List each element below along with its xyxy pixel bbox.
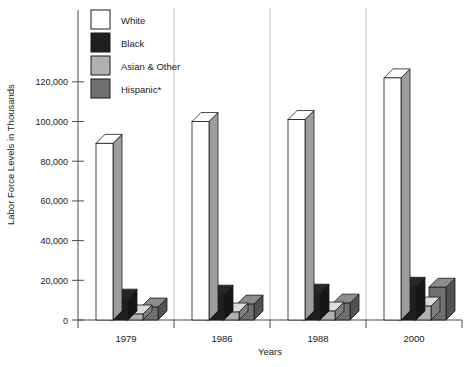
chart-canvas: 020,00040,00060,00080,000100,000120,000 …: [0, 0, 468, 367]
y-axis-title: Labor Force Levels in Thousands: [5, 84, 16, 225]
bar-side-face: [401, 69, 410, 320]
legend-swatch-hispanic-: [91, 79, 110, 98]
legend-label-black: Black: [121, 38, 144, 49]
y-tick-label: 60,000: [40, 196, 68, 206]
legend-swatch-black: [91, 33, 110, 52]
y-tick-label: 100,000: [35, 117, 68, 127]
bar-white-1988: [288, 111, 314, 320]
y-tick-label: 0: [63, 316, 68, 326]
bar-front-face: [288, 120, 305, 320]
y-tick-label: 20,000: [40, 276, 68, 286]
bar-white-1986: [192, 113, 218, 320]
legend-label-hispanic-: Hispanic*: [121, 84, 161, 95]
bar-side-face: [113, 134, 122, 320]
bar-side-face: [209, 113, 218, 320]
bar-white-2000: [384, 69, 410, 320]
y-tick-label: 120,000: [35, 77, 68, 87]
x-tick-label-2000: 2000: [403, 333, 424, 344]
x-axis-title: Years: [258, 346, 282, 357]
bar-front-face: [192, 122, 209, 320]
y-tick-label: 80,000: [40, 157, 68, 167]
y-tick-label: 40,000: [40, 236, 68, 246]
legend-swatch-asian-other: [91, 56, 110, 75]
bar-white-1979: [96, 134, 122, 320]
bar-chart: 020,00040,00060,00080,000100,000120,000 …: [0, 0, 468, 367]
bar-front-face: [96, 143, 113, 320]
legend-label-asian-other: Asian & Other: [121, 61, 180, 72]
legend-label-white: White: [121, 15, 145, 26]
x-tick-label-1988: 1988: [307, 333, 328, 344]
bar-front-face: [384, 78, 401, 320]
bar-side-face: [305, 111, 314, 320]
legend-swatch-white: [91, 10, 110, 29]
x-tick-label-1979: 1979: [115, 333, 136, 344]
x-tick-label-1986: 1986: [211, 333, 232, 344]
